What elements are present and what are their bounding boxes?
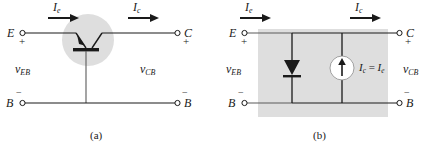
polarity-minus-B-right-b: − — [404, 87, 410, 98]
terminal-label-B-left-b: B — [228, 96, 235, 111]
terminal-node-C-b[interactable] — [397, 30, 402, 35]
panel-caption-a: (a) — [90, 129, 102, 141]
terminal-node-C-a[interactable] — [175, 30, 180, 35]
panel-a — [20, 14, 180, 106]
current-label-Ic-b: Ic — [355, 0, 363, 15]
polarity-plus-C-a: + — [183, 35, 189, 47]
voltage-label-vEB-b: vEB — [226, 62, 241, 77]
panel-caption-b: (b) — [313, 129, 326, 141]
terminal-label-E-a: E — [7, 26, 14, 41]
polarity-plus-E-b: + — [241, 35, 247, 47]
voltage-subscript-EB: EB — [20, 68, 30, 77]
voltage-subscript-CB: CB — [408, 68, 418, 77]
current-label-Ie-b: Ie — [245, 0, 253, 15]
terminal-label-B-right-a: B — [184, 96, 191, 111]
terminal-label-B-right-b: B — [406, 96, 413, 111]
polarity-minus-B-left-a: − — [16, 87, 22, 98]
figure-container: E + C + B − B − Ie Ic vEB vCB (a) E + C … — [0, 0, 444, 149]
polarity-minus-B-right-a: − — [182, 87, 188, 98]
current-arrow-Ic-b-head — [372, 14, 381, 22]
terminal-node-B-right-a[interactable] — [175, 100, 180, 105]
current-arrow-Ie-b-head — [262, 14, 271, 22]
current-label-Ic-a: Ic — [133, 0, 141, 15]
current-subscript-e: e — [249, 6, 253, 15]
current-source-equation-label: Ic = Ie — [359, 61, 385, 75]
terminal-node-B-left-a[interactable] — [20, 100, 25, 105]
voltage-label-vCB-b: vCB — [403, 62, 418, 77]
base-bar-a — [73, 48, 99, 51]
terminal-label-E-b: E — [229, 26, 236, 41]
diode-cathode-bar-icon — [283, 75, 301, 77]
polarity-plus-E-a: + — [19, 35, 25, 47]
terminal-label-B-left-a: B — [6, 96, 13, 111]
terminal-node-B-right-b[interactable] — [397, 100, 402, 105]
eq-rhs-subscript: e — [381, 67, 384, 75]
terminal-node-B-left-b[interactable] — [242, 100, 247, 105]
voltage-label-vEB-a: vEB — [15, 62, 30, 77]
polarity-plus-C-b: + — [405, 35, 411, 47]
current-subscript-c: c — [359, 6, 363, 15]
voltage-subscript-CB: CB — [145, 68, 155, 77]
current-subscript-e: e — [57, 6, 61, 15]
voltage-subscript-EB: EB — [231, 68, 241, 77]
current-subscript-c: c — [137, 6, 141, 15]
current-label-Ie-a: Ie — [53, 0, 61, 15]
polarity-minus-B-left-b: − — [238, 87, 244, 98]
transistor-shading-circle — [62, 14, 114, 66]
current-arrow-Ic-a-head — [150, 14, 159, 22]
voltage-label-vCB-a: vCB — [140, 62, 155, 77]
